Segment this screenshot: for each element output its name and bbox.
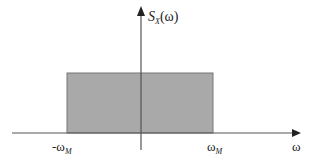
spectrum-rectangle xyxy=(67,73,213,133)
y-label-arg: (ω) xyxy=(160,9,179,24)
tick-left-sub: M xyxy=(65,147,72,156)
x-axis-label: ω xyxy=(292,140,301,153)
y-label-main: S xyxy=(148,9,155,24)
tick-label-omega-m: ωM xyxy=(207,140,222,156)
tick-right-main: ω xyxy=(207,139,216,154)
tick-right-sub: M xyxy=(216,147,223,156)
x-axis-arrow-icon xyxy=(292,129,301,137)
y-axis-label: SX(ω) xyxy=(148,10,178,26)
tick-label-neg-omega-m: -ωM xyxy=(52,140,72,156)
y-axis-arrow-icon xyxy=(137,6,145,16)
tick-left-main: -ω xyxy=(52,139,65,154)
x-label-text: ω xyxy=(292,139,301,154)
